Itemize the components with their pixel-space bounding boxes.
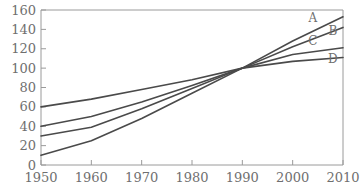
series-label-d: D bbox=[328, 52, 338, 66]
x-tick-label: 2000 bbox=[276, 170, 309, 185]
y-tick-label: 20 bbox=[19, 138, 36, 153]
y-tick-label: 120 bbox=[11, 41, 36, 56]
x-tick-label: 1980 bbox=[175, 170, 208, 185]
x-tick-label: 1990 bbox=[226, 170, 259, 185]
series-end-labels: ABCD bbox=[307, 11, 337, 67]
y-tick-label: 80 bbox=[19, 80, 36, 95]
x-tick-label: 2010 bbox=[326, 170, 359, 185]
chart-canvas: 020406080100120140160 195019601970198019… bbox=[0, 0, 360, 188]
y-tick-label: 100 bbox=[11, 61, 36, 76]
x-axis-tick-labels: 1950196019701980199020002010 bbox=[24, 170, 359, 185]
series-line-d bbox=[41, 57, 343, 155]
x-tick-label: 1950 bbox=[24, 170, 57, 185]
x-tick-label: 1970 bbox=[125, 170, 158, 185]
series-line-b bbox=[41, 27, 343, 126]
data-series-lines bbox=[41, 17, 343, 156]
y-tick-label: 140 bbox=[11, 22, 36, 37]
series-label-b: B bbox=[329, 24, 338, 38]
x-tick-label: 1960 bbox=[75, 170, 108, 185]
series-label-a: A bbox=[307, 11, 317, 25]
y-tick-label: 60 bbox=[19, 99, 36, 114]
y-tick-label: 40 bbox=[19, 119, 36, 134]
y-axis-tick-labels: 020406080100120140160 bbox=[11, 3, 36, 173]
series-label-c: C bbox=[308, 34, 317, 48]
y-tick-label: 160 bbox=[11, 3, 36, 18]
line-chart: 020406080100120140160 195019601970198019… bbox=[0, 0, 360, 188]
